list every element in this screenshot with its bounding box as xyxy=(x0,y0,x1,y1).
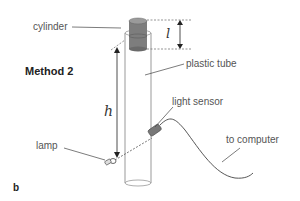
lamp-leader xyxy=(64,148,105,160)
cylinder-object xyxy=(129,18,147,52)
computer-leader xyxy=(222,148,240,162)
sensor-leader xyxy=(155,107,173,127)
method-title: Method 2 xyxy=(25,66,73,77)
length-variable: l xyxy=(166,27,170,40)
plastic-tube xyxy=(125,30,151,186)
lamp-label: lamp xyxy=(36,141,58,151)
light-sensor-label: light sensor xyxy=(172,97,223,107)
height-marker xyxy=(111,40,125,158)
cylinder-leader xyxy=(72,27,121,28)
figure-label: b xyxy=(13,183,19,193)
plastic-tube-label: plastic tube xyxy=(186,59,237,69)
height-variable: h xyxy=(104,104,113,118)
lamp-icon xyxy=(104,159,116,166)
light-sensor-icon xyxy=(147,124,162,137)
light-beam xyxy=(115,138,152,160)
cylinder-label: cylinder xyxy=(33,22,67,32)
to-computer-label: to computer xyxy=(226,135,279,145)
